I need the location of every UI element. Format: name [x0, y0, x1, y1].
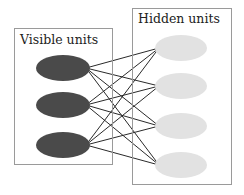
hidden-units-label: Hidden units [138, 11, 220, 26]
hidden-unit-node [155, 73, 207, 99]
visible-units-label: Visible units [19, 32, 98, 47]
connection-edge [86, 86, 159, 145]
hidden-unit-node [155, 113, 207, 139]
connection-edge [86, 86, 159, 105]
visible-unit-node [36, 132, 90, 158]
connection-edge [86, 126, 159, 145]
connection-edge [86, 48, 159, 68]
connections [86, 48, 159, 165]
visible-unit-node [36, 92, 90, 118]
visible-unit-node [36, 55, 90, 81]
connection-edge [86, 145, 159, 165]
connection-edge [86, 68, 159, 165]
visible-units [36, 55, 90, 158]
hidden-unit-node [155, 152, 207, 178]
rbm-diagram: Visible units Hidden units [0, 0, 244, 195]
hidden-unit-node [155, 35, 207, 61]
hidden-units [155, 35, 207, 178]
